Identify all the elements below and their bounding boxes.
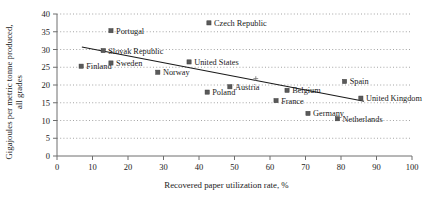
x-tick-label-30: 30 (159, 162, 168, 172)
data-point-label: Spain (350, 77, 370, 86)
data-point-label: Belgium (292, 86, 321, 95)
y-axis-title: Gigajoules per metric tonne produced, (4, 24, 14, 159)
x-tick-label-20: 20 (124, 162, 133, 172)
x-tick-label-60: 60 (266, 162, 275, 172)
y-tick-label-5: 5 (46, 133, 50, 143)
x-tick-label-90: 90 (372, 162, 381, 172)
data-point-label: Netherlands (343, 115, 383, 124)
data-point-marker (359, 96, 363, 100)
y-tick-label-0: 0 (46, 151, 50, 161)
x-axis-title: Recovered paper utilization rate, % (164, 180, 289, 190)
y-tick-label-20: 20 (42, 80, 51, 90)
y-tick-label-40: 40 (42, 9, 51, 19)
x-tick-label-40: 40 (195, 162, 204, 172)
data-point-label: Norway (163, 68, 191, 77)
y-tick-label-15: 15 (42, 98, 51, 108)
x-tick-label-70: 70 (301, 162, 310, 172)
y-tick-label-30: 30 (42, 45, 51, 55)
x-tick-label-100: 100 (406, 162, 419, 172)
data-point-label: France (281, 97, 304, 106)
y-tick-label-10: 10 (42, 116, 51, 126)
data-point-label: Germany (313, 109, 345, 118)
data-point-marker (228, 85, 232, 89)
data-point-label: United Kingdom (366, 94, 423, 103)
data-point-label: Czech Republic (214, 19, 267, 28)
x-tick-label-0: 0 (55, 162, 59, 172)
y-axis-title-line2: all grades (14, 74, 24, 109)
x-tick-label-50: 50 (230, 162, 239, 172)
data-point-marker (335, 117, 339, 121)
data-point-marker (207, 21, 211, 25)
data-point-marker (109, 29, 113, 33)
data-point-marker (205, 90, 209, 94)
scatter-plot: 01020304050607080901000510152025303540Fi… (0, 0, 432, 202)
data-point-marker (285, 88, 289, 92)
data-point-label: United States (194, 58, 238, 67)
data-point-marker (306, 111, 310, 115)
data-point-marker (109, 61, 113, 65)
x-tick-label-10: 10 (88, 162, 97, 172)
data-point-marker (274, 99, 278, 103)
data-point-marker (156, 70, 160, 74)
data-point-label: Slovak Republic (108, 47, 163, 56)
x-tick-label-80: 80 (337, 162, 346, 172)
data-point-label: Poland (212, 88, 236, 97)
y-tick-label-35: 35 (42, 27, 51, 37)
data-point-marker (101, 48, 105, 52)
data-point-label: Portugal (116, 27, 145, 36)
y-tick-label-25: 25 (42, 62, 51, 72)
data-point-label: Sweden (116, 59, 143, 68)
data-point-marker (79, 64, 83, 68)
chart-figure: 01020304050607080901000510152025303540Fi… (0, 0, 432, 202)
data-point-label: Finland (86, 62, 112, 71)
data-point-marker (187, 60, 191, 64)
data-point-label: Austria (235, 83, 260, 92)
data-point-marker (342, 79, 346, 83)
